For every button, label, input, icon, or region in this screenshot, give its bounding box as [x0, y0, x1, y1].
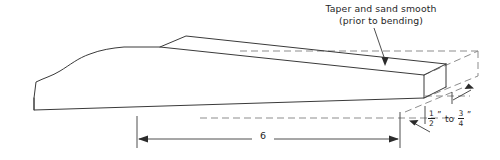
- callout-leader-arrowhead: [382, 57, 389, 66]
- thickness-dimension-label: 1 2 ” to 3 4 ”: [428, 110, 471, 127]
- thickness-max-numerator: 3: [458, 110, 465, 118]
- thickness-min-fraction: 1 2: [428, 110, 435, 127]
- callout-leader-group: [374, 28, 389, 66]
- technical-drawing-canvas: Taper and sand smooth (prior to bending)…: [0, 0, 500, 160]
- thickness-max-inch-mark: ”: [467, 111, 471, 120]
- length-arrowhead-left: [138, 136, 148, 143]
- thickness-min-numerator: 1: [428, 110, 435, 118]
- taper-callout-note: Taper and sand smooth (prior to bending): [305, 3, 457, 26]
- thickness-min-inch-mark: ”: [437, 111, 441, 120]
- thickness-arrowhead-upper: [465, 84, 475, 90]
- plank-top-face-edge: [424, 64, 446, 75]
- plank-front-face: [34, 47, 424, 110]
- thickness-max-fraction: 3 4: [458, 110, 465, 127]
- length-dimension-label: 6: [255, 130, 271, 141]
- taper-callout-line-2: (prior to bending): [305, 15, 457, 27]
- taper-callout-line-1: Taper and sand smooth: [305, 3, 457, 15]
- plank-body-group: [34, 36, 446, 110]
- thickness-range-connector: to: [445, 114, 454, 124]
- callout-leader-line: [374, 28, 385, 60]
- thickness-leader-upper: [453, 90, 471, 100]
- thickness-min-denominator: 2: [428, 118, 435, 127]
- length-arrowhead-right: [389, 136, 399, 143]
- thickness-max-denominator: 4: [458, 118, 465, 127]
